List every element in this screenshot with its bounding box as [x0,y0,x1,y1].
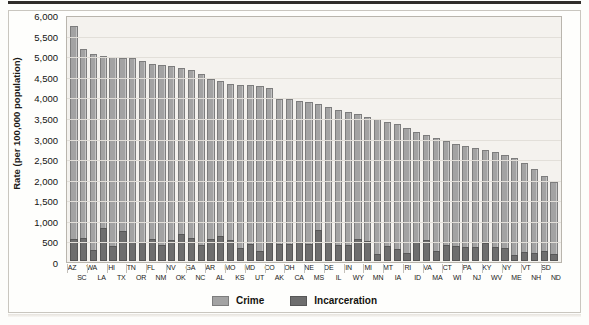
x-tick-label: MO [224,264,235,271]
bar-crime[interactable] [325,107,332,261]
bar-crime[interactable] [511,158,518,261]
bar-incarceration[interactable] [394,249,401,261]
bar-crime[interactable] [531,169,538,261]
bar-incarceration[interactable] [403,253,410,261]
x-tick-label: CT [443,264,452,271]
bar-crime[interactable] [345,112,352,261]
bar-incarceration[interactable] [345,245,352,261]
x-tick-label: IL [336,274,341,281]
x-label-slot: WI [452,264,462,290]
bar-crime[interactable] [501,155,508,261]
x-label-slot: SC [77,264,87,290]
bar-crime[interactable] [266,88,273,261]
bar-crime[interactable] [521,163,528,261]
bar-incarceration[interactable] [296,242,303,261]
bar-incarceration[interactable] [413,242,420,261]
bar-incarceration[interactable] [511,255,518,261]
legend-label-crime: Crime [236,295,264,306]
bar-incarceration[interactable] [178,234,185,261]
x-label-slot: TX [116,264,126,290]
bar-incarceration[interactable] [443,245,450,261]
bar-incarceration[interactable] [100,228,107,261]
bar-incarceration[interactable] [119,231,126,261]
bar-incarceration[interactable] [247,244,254,261]
bar-incarceration[interactable] [90,250,97,261]
y-axis-tick-labels: 6,0005,5005,0004,5004,0003,5003,0002,500… [0,16,62,263]
bar-incarceration[interactable] [305,244,312,261]
x-label-slot: AK [274,264,284,290]
y-tick-label: 3,000 [34,134,58,145]
bar-crime[interactable] [217,81,224,261]
bar-incarceration[interactable] [521,252,528,261]
bar-crime[interactable] [354,114,361,261]
bar-crime[interactable] [207,79,214,261]
bar-incarceration[interactable] [374,254,381,261]
bar-incarceration[interactable] [541,251,548,261]
bar-incarceration[interactable] [384,246,391,261]
bar-incarceration[interactable] [482,243,489,261]
bar-incarceration[interactable] [452,246,459,261]
bar-crime[interactable] [472,148,479,261]
legend-item-incarceration[interactable]: Incarceration [290,295,377,306]
bar-incarceration[interactable] [256,251,263,261]
bar-incarceration[interactable] [276,244,283,261]
bar-crime[interactable] [256,86,263,261]
bar-crime[interactable] [384,122,391,261]
bar-incarceration[interactable] [237,248,244,261]
x-tick-label: ID [414,274,421,281]
x-tick-label: SD [541,264,550,271]
x-tick-label: NH [531,274,541,281]
bar-incarceration[interactable] [364,241,371,261]
bar-incarceration[interactable] [492,247,499,261]
bar-crime[interactable] [394,124,401,261]
bar-incarceration[interactable] [129,242,136,261]
bar-incarceration[interactable] [139,242,146,261]
gridline [67,140,561,141]
bar-incarceration[interactable] [501,248,508,262]
bar-incarceration[interactable] [266,242,273,261]
bar-crime[interactable] [247,85,254,261]
bar-crime[interactable] [168,66,175,261]
bar-crime[interactable] [158,65,165,261]
bar-incarceration[interactable] [80,238,87,261]
bar-incarceration[interactable] [109,246,116,261]
bar-crime[interactable] [364,117,371,261]
bar-crime[interactable] [462,146,469,261]
bar-crime[interactable] [70,26,77,261]
bar-incarceration[interactable] [158,245,165,261]
bar-crime[interactable] [109,57,116,261]
bar-crime[interactable] [335,110,342,261]
bar-crime[interactable] [149,64,156,261]
y-tick-label: 1,500 [34,196,58,207]
bar-crime[interactable] [482,150,489,261]
bar-crime[interactable] [403,128,410,261]
bar-incarceration[interactable] [335,245,342,261]
bar-incarceration[interactable] [315,230,322,261]
bar-crime[interactable] [541,176,548,261]
x-label-slot: NV [166,264,176,290]
bar-incarceration[interactable] [217,236,224,261]
bar-crime[interactable] [178,68,185,261]
bar-crime[interactable] [374,119,381,261]
legend-item-crime[interactable]: Crime [212,295,264,306]
bar-incarceration[interactable] [531,253,538,261]
bar-incarceration[interactable] [550,254,557,261]
x-tick-label: MA [432,274,442,281]
bar-crime[interactable] [100,56,107,261]
bar-crime[interactable] [227,84,234,261]
bar-crime[interactable] [198,74,205,261]
bar-incarceration[interactable] [462,247,469,261]
bar-incarceration[interactable] [433,251,440,261]
bar-incarceration[interactable] [198,245,205,261]
bar-incarceration[interactable] [286,244,293,261]
x-label-slot: MI [363,264,373,290]
x-tick-label: FL [147,264,155,271]
bar-incarceration[interactable] [472,247,479,261]
bar-crime[interactable] [237,85,244,261]
bar-crime[interactable] [492,152,499,261]
bar-crime[interactable] [90,54,97,261]
bar-crime[interactable] [315,104,322,261]
bar-incarceration[interactable] [325,242,332,261]
bar-crime[interactable] [80,49,87,261]
gridline [67,78,561,79]
